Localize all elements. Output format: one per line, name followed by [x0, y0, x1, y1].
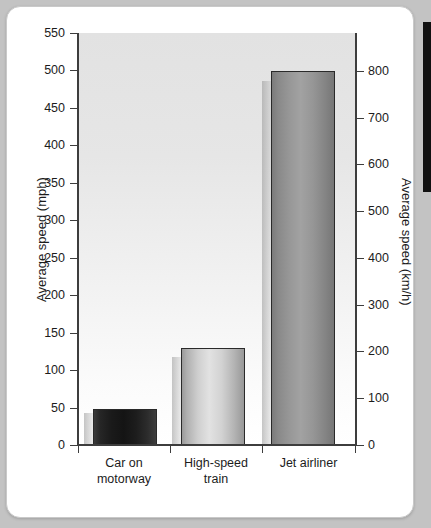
y-tick-left — [70, 333, 78, 334]
bar-high-speed-train[interactable] — [181, 348, 245, 445]
y-tick-right — [356, 164, 364, 165]
y-tick-left — [70, 220, 78, 221]
y-tick-left — [70, 145, 78, 146]
y-tick-label-left: 100 — [44, 364, 65, 377]
y-axis-left-title: Average speed (mph) — [34, 177, 49, 302]
x-tick — [262, 446, 263, 453]
y-axis-right-line — [355, 33, 357, 446]
x-category-label-car: Car on motorway — [78, 456, 170, 487]
x-category-label-jet: Jet airliner — [262, 456, 355, 472]
y-tick-left — [70, 108, 78, 109]
y-tick-right — [356, 398, 364, 399]
y-tick-label-right: 800 — [368, 65, 389, 78]
y-tick-left — [70, 33, 78, 34]
x-tick — [170, 446, 171, 453]
y-tick-label-right: 700 — [368, 112, 389, 125]
y-tick-label-left: 150 — [44, 327, 65, 340]
y-tick-label-right: 0 — [368, 439, 375, 452]
bar-jet-airliner[interactable] — [271, 71, 335, 445]
y-tick-label-right: 400 — [368, 252, 389, 265]
y-tick-right — [356, 445, 364, 446]
y-tick-label-left: 50 — [51, 402, 65, 415]
y-tick-label-left: 500 — [44, 64, 65, 77]
y-tick-left — [70, 183, 78, 184]
y-tick-left — [70, 408, 78, 409]
y-tick-left — [70, 445, 78, 446]
y-tick-right — [356, 211, 364, 212]
y-axis-right-title: Average speed (km/h) — [399, 178, 414, 306]
y-tick-right — [356, 351, 364, 352]
y-tick-label-left: 0 — [58, 439, 65, 452]
y-tick-right — [356, 305, 364, 306]
y-tick-right — [356, 71, 364, 72]
y-tick-left — [70, 370, 78, 371]
x-tick — [355, 446, 356, 453]
x-category-label-train: High-speed train — [170, 456, 262, 487]
x-tick — [78, 446, 79, 453]
y-axis-left-line — [77, 33, 79, 446]
y-tick-left — [70, 258, 78, 259]
y-tick-left — [70, 295, 78, 296]
y-tick-label-right: 200 — [368, 345, 389, 358]
y-tick-label-right: 300 — [368, 299, 389, 312]
y-tick-right — [356, 258, 364, 259]
y-tick-right — [356, 118, 364, 119]
bar-car-on-motorway[interactable] — [93, 409, 157, 445]
y-tick-label-right: 500 — [368, 205, 389, 218]
page-background: 550 500 450 400 350 300 250 200 150 100 … — [0, 0, 431, 528]
y-tick-label-right: 600 — [368, 158, 389, 171]
y-tick-left — [70, 70, 78, 71]
bar-chart: 550 500 450 400 350 300 250 200 150 100 … — [0, 0, 431, 528]
y-tick-label-left: 400 — [44, 139, 65, 152]
y-tick-label-left: 550 — [44, 27, 65, 40]
y-tick-label-right: 100 — [368, 392, 389, 405]
x-axis-line — [77, 444, 357, 446]
y-tick-label-left: 450 — [44, 102, 65, 115]
